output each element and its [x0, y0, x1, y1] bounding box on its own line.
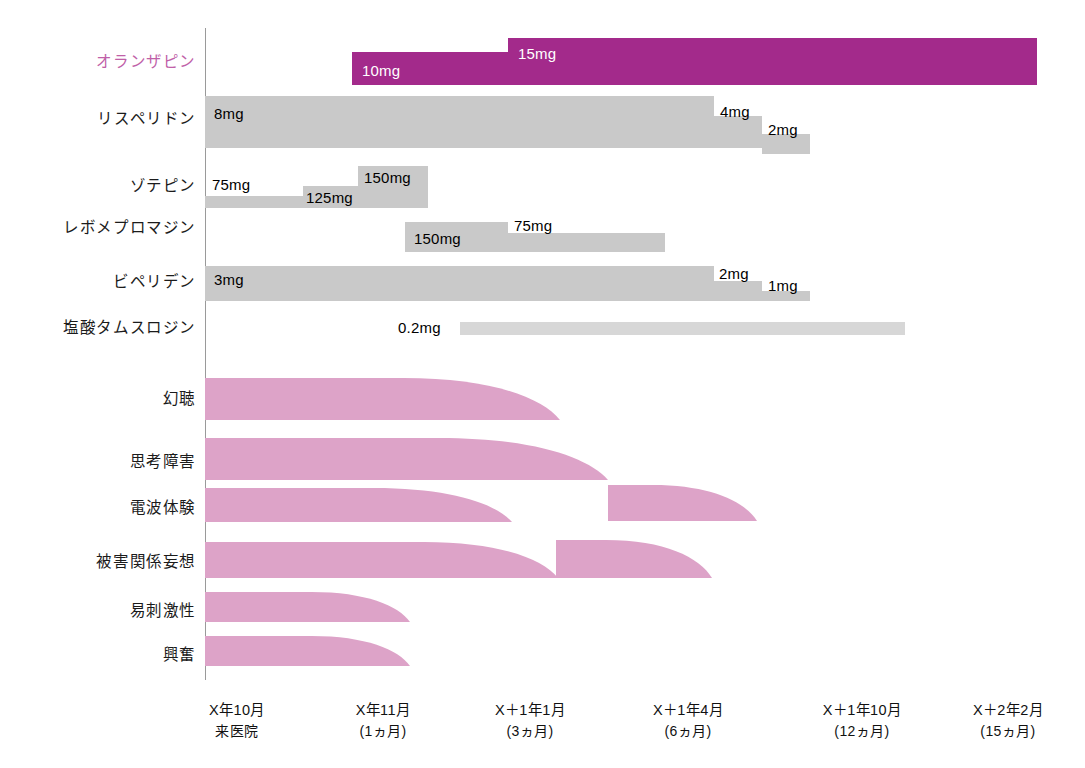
x-tick-main-2: X年11月: [356, 702, 411, 718]
dose-bar-2-2: [714, 116, 762, 148]
dose-bar-6-1: [460, 322, 905, 335]
dose-bar-2-1: [205, 96, 714, 148]
dose-label-6-1: 0.2mg: [398, 320, 441, 335]
x-tick-sub-1: 来医院: [162, 721, 312, 741]
symptom-lobe-2-1: [205, 438, 608, 480]
medication-label-6: 塩酸タムスロジン: [0, 320, 196, 336]
symptom-lobe-3-1: [205, 488, 512, 522]
dose-label-5-2: 2mg: [719, 266, 749, 281]
dose-label-2-1: 8mg: [214, 106, 244, 121]
dose-bar-5-1: [205, 266, 714, 301]
dose-label-3-3: 150mg: [364, 170, 411, 185]
x-tick-main-5: X＋1年10月: [823, 702, 902, 718]
dose-bar-5-2: [714, 281, 762, 301]
symptom-lobe-5-1: [205, 592, 410, 622]
dose-label-2-2: 4mg: [720, 104, 750, 119]
medication-label-4: レボメプロマジン: [0, 220, 196, 236]
symptom-label-2: 思考障害: [0, 454, 196, 470]
symptom-lobe-4-2: [556, 540, 712, 578]
x-tick-sub-3: (3ヵ月): [455, 721, 605, 741]
x-tick-main-4: X＋1年4月: [653, 702, 723, 718]
x-tick-4: X＋1年4月(6ヵ月): [613, 700, 763, 741]
x-tick-2: X年11月(1ヵ月): [308, 700, 458, 741]
symptom-lobe-3-2: [608, 485, 757, 521]
x-tick-sub-6: (15ヵ月): [933, 721, 1083, 741]
x-tick-sub-4: (6ヵ月): [613, 721, 763, 741]
medication-label-2: リスペリドン: [0, 111, 196, 127]
x-tick-main-6: X＋2年2月: [973, 702, 1043, 718]
symptom-label-3: 電波体験: [0, 500, 196, 516]
x-tick-sub-2: (1ヵ月): [308, 721, 458, 741]
x-tick-3: X＋1年1月(3ヵ月): [455, 700, 605, 741]
medication-label-5: ビペリデン: [0, 274, 196, 290]
dose-bar-1-2: [508, 38, 1037, 85]
dose-label-1-1: 10mg: [362, 63, 400, 78]
symptom-lobe-6-1: [205, 636, 410, 666]
x-tick-sub-5: (12ヵ月): [787, 721, 937, 741]
medication-label-1: オランザピン: [0, 54, 196, 70]
x-tick-main-1: X年10月: [209, 702, 265, 718]
clinical-course-chart: オランザピン10mg15mgリスペリドン8mg4mg2mgゾテピン75mg125…: [0, 0, 1085, 768]
dose-bar-3-1: [205, 196, 303, 208]
symptom-label-6: 興奮: [0, 647, 196, 663]
dose-label-3-1: 75mg: [212, 177, 250, 192]
symptom-label-1: 幻聴: [0, 391, 196, 407]
x-tick-1: X年10月来医院: [162, 700, 312, 741]
dose-label-3-2: 125mg: [306, 190, 353, 205]
symptom-label-4: 被害関係妄想: [0, 554, 196, 570]
dose-label-4-1: 150mg: [414, 231, 461, 246]
symptom-lobe-1-1: [205, 378, 560, 420]
dose-label-5-1: 3mg: [214, 272, 244, 287]
x-tick-5: X＋1年10月(12ヵ月): [787, 700, 937, 741]
medication-label-3: ゾテピン: [0, 178, 196, 194]
dose-label-4-2: 75mg: [514, 218, 552, 233]
x-tick-main-3: X＋1年1月: [495, 702, 565, 718]
symptom-label-5: 易刺激性: [0, 603, 196, 619]
dose-label-5-3: 1mg: [768, 278, 798, 293]
dose-bar-4-2: [508, 233, 665, 252]
dose-label-1-2: 15mg: [518, 46, 556, 61]
dose-label-2-3: 2mg: [768, 122, 798, 137]
symptom-lobe-4-1: [205, 542, 558, 578]
x-tick-6: X＋2年2月(15ヵ月): [933, 700, 1083, 741]
